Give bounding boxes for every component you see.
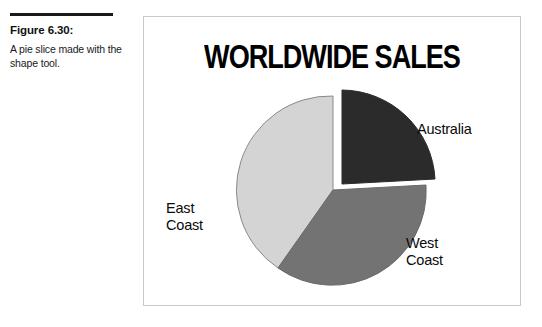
chart-frame: WORLDWIDE SALES Australia East Coast Wes… — [143, 16, 521, 306]
pie-label-australia: Australia — [417, 121, 472, 138]
figure-description-text: A pie slice made with the shape tool. — [10, 42, 122, 70]
pie-chart-graphic — [144, 17, 520, 305]
figure-number-label: Figure 6.30: — [10, 23, 122, 37]
figure-caption: Figure 6.30: A pie slice made with the s… — [10, 13, 122, 70]
pie-label-west-coast: West Coast — [406, 235, 443, 269]
caption-rule-divider — [10, 13, 113, 16]
pie-label-east-coast: East Coast — [166, 200, 203, 234]
